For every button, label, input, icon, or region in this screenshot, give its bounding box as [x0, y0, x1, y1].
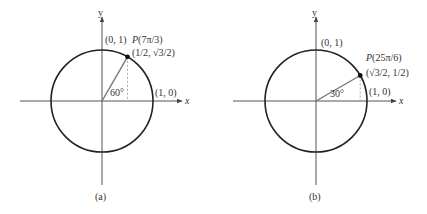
angle-label: 60° — [110, 87, 124, 98]
label-right: (1, 0) — [155, 87, 177, 99]
point-label: P(25π/6) — [365, 52, 402, 64]
label-top: (0, 1) — [105, 34, 127, 46]
panel-b: y x (0, 1) (1, 0) P(25π/6) (√3/2, 1/2) 3… — [233, 7, 409, 203]
point-p — [358, 73, 363, 78]
label-top: (0, 1) — [321, 37, 343, 49]
panel-a: y x (0, 1) (1, 0) P(7π/3) (1/2, √3/2) 60… — [20, 7, 190, 203]
point-coords: (1/2, √3/2) — [132, 47, 175, 59]
y-axis-label: y — [312, 7, 317, 18]
x-axis-label: x — [184, 95, 190, 106]
caption: (b) — [309, 191, 321, 203]
angle-label: 30° — [330, 88, 344, 99]
label-right: (1, 0) — [369, 86, 391, 98]
y-axis-label: y — [98, 7, 103, 18]
unit-circle-figure: y x (0, 1) (1, 0) P(7π/3) (1/2, √3/2) 60… — [0, 0, 427, 214]
caption: (a) — [95, 191, 106, 203]
x-axis-label: x — [398, 95, 404, 106]
point-label: P(7π/3) — [131, 34, 163, 46]
point-coords: (√3/2, 1/2) — [366, 67, 409, 79]
point-p — [125, 54, 130, 59]
